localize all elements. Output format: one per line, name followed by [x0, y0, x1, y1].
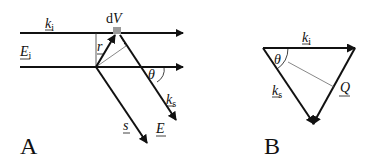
- label-e-i: Ei: [19, 44, 32, 61]
- triangle-thin-line: [288, 62, 334, 87]
- label-b-q: Q: [340, 80, 350, 95]
- triangle-k-s-arrow: [263, 48, 314, 124]
- label-dv: dV: [106, 11, 123, 26]
- panel-b: ki θ ks Q B: [263, 30, 355, 159]
- scattering-diagram: ki Ei dV r θ ks s E A ki θ ks Q: [0, 0, 375, 166]
- label-k-i: ki: [45, 16, 54, 33]
- label-s: s: [123, 118, 129, 133]
- volume-element-dv: [113, 27, 121, 34]
- label-b-theta: θ: [274, 52, 281, 67]
- panel-b-label: B: [264, 133, 280, 159]
- label-r: r: [97, 39, 103, 54]
- direction-vector-s: [96, 67, 147, 143]
- theta-arc-a: [157, 67, 164, 82]
- label-b-k-i: ki: [302, 30, 311, 47]
- label-e: E: [155, 121, 165, 136]
- label-k-s: ks: [166, 92, 176, 109]
- panel-a: ki Ei dV r θ ks s E A: [19, 11, 183, 159]
- label-theta-a: θ: [148, 67, 155, 82]
- panel-a-label: A: [20, 133, 38, 159]
- label-b-k-s: ks: [272, 83, 282, 100]
